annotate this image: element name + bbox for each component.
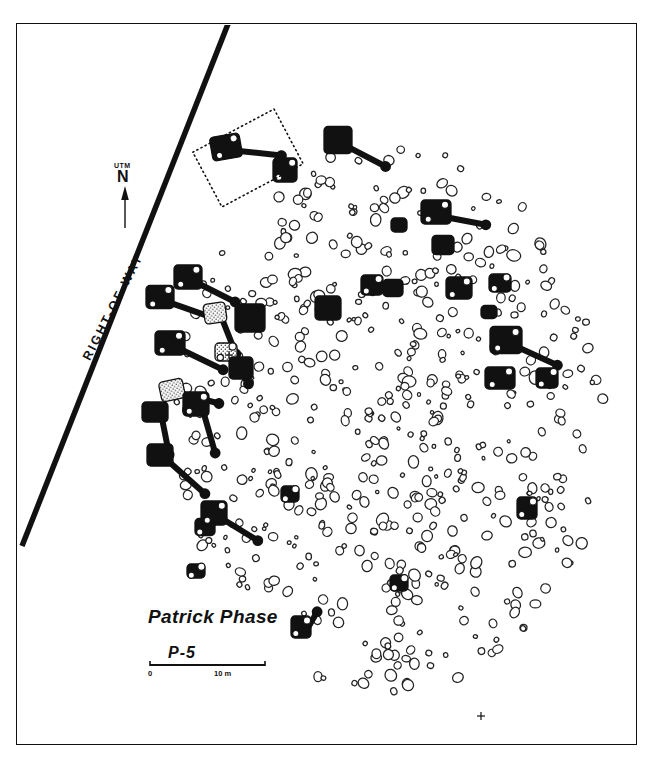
structure-basin: [481, 306, 497, 319]
structure-basin: [391, 218, 407, 232]
structure-basin: [390, 575, 408, 591]
north-letter-label: N: [117, 168, 129, 186]
structure-basin: [147, 444, 210, 499]
scale-max-label: 10 m: [214, 669, 231, 678]
north-arrow: [121, 186, 129, 228]
structure-basin: [229, 357, 253, 379]
site-plan-canvas: [0, 0, 656, 769]
structure-basin: [432, 236, 454, 255]
site-code-label: P-5: [168, 644, 196, 662]
structure-basin: [490, 327, 563, 371]
structure-basin: [446, 277, 472, 299]
structure-basin: [315, 296, 341, 320]
site-plan-figure: RIGHT-OF-WAY UTM N Patrick Phase P-5 0 1…: [0, 0, 656, 769]
structure-basin: [281, 486, 299, 502]
structure-basin: [383, 280, 403, 297]
scale-min-label: 0: [148, 669, 152, 678]
structure-basin: [324, 127, 391, 172]
structure-basin: [421, 200, 491, 230]
structure-basin: [235, 304, 265, 332]
structure-basin: [536, 368, 558, 388]
structure-basin: [187, 563, 205, 578]
structure-basin: [485, 367, 515, 389]
structure-basin: [517, 497, 537, 519]
structure-basin: [174, 265, 240, 307]
structure-basin: [361, 275, 383, 295]
phase-title: Patrick Phase: [148, 606, 278, 628]
structure-basin: [489, 274, 511, 292]
